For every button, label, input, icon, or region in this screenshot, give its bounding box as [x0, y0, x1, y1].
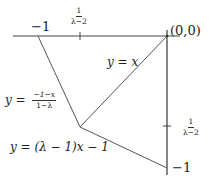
- label-rhs: x: [131, 55, 138, 69]
- label-y-fraction-line: y = −1−x 1−λ: [5, 91, 56, 109]
- label-equals: =: [114, 55, 132, 69]
- vertical-minus-one-label: −1: [172, 161, 191, 174]
- horizontal-tick-fraction: 1 λ−2: [71, 7, 87, 25]
- label-y-equals-x: y = x: [107, 55, 138, 69]
- label-lhs: y =: [5, 93, 29, 107]
- fraction-denominator: λ−2: [71, 17, 87, 26]
- label-lhs: y: [107, 55, 114, 69]
- vertical-tick-fraction: 1 λ−2: [183, 118, 199, 136]
- line-y-frac: [38, 36, 80, 127]
- horizontal-minus-one-label: −1: [31, 20, 50, 33]
- origin-point: [166, 35, 169, 38]
- origin-label: (0,0): [170, 24, 201, 37]
- fraction-denominator: 1−λ: [36, 101, 52, 110]
- line-fraction: −1−x 1−λ: [32, 91, 56, 109]
- fraction-numerator: 1: [76, 7, 83, 17]
- label-y-linear-line: y = (λ − 1)x − 1: [10, 140, 109, 154]
- label-text: y = (λ − 1)x − 1: [10, 140, 109, 154]
- line-y-equals-x: [80, 36, 167, 127]
- fraction-denominator: λ−2: [183, 128, 199, 137]
- fraction-numerator: 1: [188, 118, 195, 128]
- fraction-numerator: −1−x: [32, 91, 56, 101]
